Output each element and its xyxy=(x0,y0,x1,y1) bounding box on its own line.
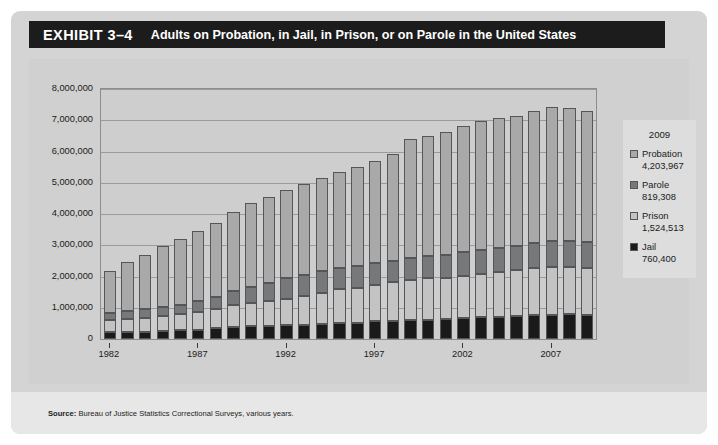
bar-segment-probation xyxy=(316,178,328,271)
bar-segment-jail xyxy=(510,316,522,339)
y-axis-tick-label: 0 xyxy=(88,333,93,343)
bar-segment-parole xyxy=(387,261,399,283)
bar-segment-prison xyxy=(263,301,275,326)
bar-segment-jail xyxy=(546,315,558,339)
bar-segment-probation xyxy=(422,136,434,256)
bar-segment-parole xyxy=(157,307,169,316)
bar-segment-prison xyxy=(139,318,151,332)
bar-segment-parole xyxy=(121,311,133,319)
bar-1982 xyxy=(104,89,116,339)
chart-legend: 2009 Probation4,203,967Parole819,308Pris… xyxy=(623,120,696,278)
bar-segment-probation xyxy=(139,255,151,309)
legend-item-prison: Prison1,524,513 xyxy=(630,210,696,233)
bar-segment-prison xyxy=(351,288,363,323)
legend-series-name: Probation xyxy=(642,148,684,160)
bar-segment-probation xyxy=(493,118,505,248)
bar-segment-jail xyxy=(404,320,416,339)
bar-segment-prison xyxy=(121,319,133,332)
legend-swatch-jail xyxy=(630,243,638,251)
bar-segment-jail xyxy=(475,317,487,339)
bar-segment-jail xyxy=(457,318,469,339)
bar-segment-probation xyxy=(227,212,239,291)
bar-1994 xyxy=(316,89,328,339)
bar-segment-probation xyxy=(333,172,345,268)
bar-segment-prison xyxy=(104,320,116,333)
x-axis-tick-label: 2002 xyxy=(452,349,473,359)
bar-segment-probation xyxy=(475,121,487,250)
bar-segment-prison xyxy=(457,276,469,319)
bar-segment-prison xyxy=(422,278,434,319)
bar-2004 xyxy=(493,89,505,339)
bar-segment-jail xyxy=(227,327,239,339)
bar-segment-probation xyxy=(351,167,363,266)
bar-segment-jail xyxy=(263,326,275,339)
bar-segment-parole xyxy=(528,243,540,268)
bar-segment-jail xyxy=(280,325,292,339)
bar-segment-parole xyxy=(263,283,275,301)
bar-segment-parole xyxy=(139,309,151,317)
x-axis-tick xyxy=(109,343,110,348)
legend-swatch-prison xyxy=(630,212,638,220)
source-label: Source: xyxy=(48,409,76,418)
bar-segment-probation xyxy=(104,271,116,313)
bar-1991 xyxy=(263,89,275,339)
bar-segment-jail xyxy=(369,321,381,339)
bar-1988 xyxy=(210,89,222,339)
bar-segment-parole xyxy=(581,242,593,268)
legend-item-parole: Parole819,308 xyxy=(630,179,696,202)
bar-segment-prison xyxy=(528,268,540,315)
bar-2008 xyxy=(563,89,575,339)
bar-segment-jail xyxy=(493,317,505,339)
bar-segment-probation xyxy=(457,126,469,252)
legend-series-name: Parole xyxy=(642,179,676,191)
bar-segment-jail xyxy=(298,325,310,339)
bar-segment-probation xyxy=(404,139,416,257)
legend-year: 2009 xyxy=(623,129,696,140)
exhibit-title: Adults on Probation, in Jail, in Prison,… xyxy=(151,28,576,42)
bar-segment-jail xyxy=(351,323,363,339)
legend-swatch-parole xyxy=(630,181,638,189)
bar-segment-probation xyxy=(263,197,275,282)
bar-segment-prison xyxy=(369,285,381,322)
x-axis-tick-label: 1992 xyxy=(275,349,296,359)
bar-segment-prison xyxy=(298,296,310,324)
legend-series-name: Jail xyxy=(642,241,676,253)
bar-2009 xyxy=(581,89,593,339)
bar-segment-parole xyxy=(475,250,487,274)
bar-1993 xyxy=(298,89,310,339)
legend-label-jail: Jail760,400 xyxy=(642,241,676,264)
bar-segment-parole xyxy=(174,305,186,314)
legend-label-parole: Parole819,308 xyxy=(642,179,676,202)
bar-segment-jail xyxy=(192,330,204,339)
y-axis-tick-label: 1,000,000 xyxy=(52,302,93,312)
y-axis-tick-label: 7,000,000 xyxy=(52,114,93,124)
bar-1997 xyxy=(369,89,381,339)
bar-segment-prison xyxy=(280,299,292,326)
bar-2005 xyxy=(510,89,522,339)
legend-series-name: Prison xyxy=(642,210,684,222)
bar-segment-jail xyxy=(245,326,257,339)
source-text: Bureau of Justice Statistics Correctiona… xyxy=(76,409,293,418)
bar-segment-parole xyxy=(245,287,257,304)
bar-segment-parole xyxy=(457,252,469,275)
bar-segment-jail xyxy=(387,321,399,340)
y-axis-tick-label: 4,000,000 xyxy=(52,208,93,218)
legend-item-probation: Probation4,203,967 xyxy=(630,148,696,171)
bar-1983 xyxy=(121,89,133,339)
y-axis-tick-label: 3,000,000 xyxy=(52,239,93,249)
bar-segment-probation xyxy=(121,262,133,311)
chart-area: 8,000,0007,000,0006,000,0005,000,0004,00… xyxy=(29,59,689,384)
bar-segment-prison xyxy=(192,312,204,330)
legend-item-jail: Jail760,400 xyxy=(630,241,696,264)
bar-segment-prison xyxy=(404,280,416,320)
exhibit-panel: EXHIBIT 3–4 Adults on Probation, in Jail… xyxy=(11,11,707,434)
bar-segment-probation xyxy=(440,132,452,255)
bar-segment-prison xyxy=(210,309,222,328)
bar-segment-jail xyxy=(210,328,222,339)
x-axis-tick-label: 1997 xyxy=(364,349,385,359)
bar-segment-prison xyxy=(581,268,593,316)
bar-segment-parole xyxy=(316,271,328,293)
bar-segment-parole xyxy=(563,241,575,267)
bar-1999 xyxy=(404,89,416,339)
legend-series-value: 760,400 xyxy=(642,253,676,265)
